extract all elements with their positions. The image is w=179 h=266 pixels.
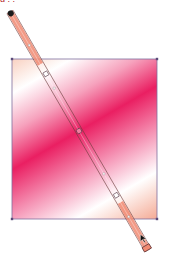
anchor-point[interactable] <box>156 58 158 60</box>
midpoint-diamond[interactable] <box>127 215 129 217</box>
midpoint-diamond[interactable] <box>28 44 30 46</box>
artwork-svg <box>0 0 179 266</box>
gradient-filled-rectangle[interactable] <box>12 59 157 219</box>
artboard <box>0 0 179 266</box>
midpoint-diamond[interactable] <box>103 173 105 175</box>
midpoint-diamond[interactable] <box>53 87 55 89</box>
anchor-point[interactable] <box>11 218 13 220</box>
anchor-point[interactable] <box>156 218 158 220</box>
anchor-point[interactable] <box>11 58 13 60</box>
